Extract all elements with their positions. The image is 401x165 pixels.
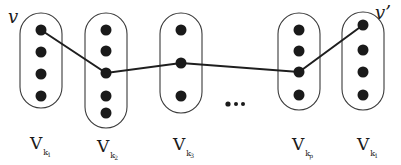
vertex-v [36, 25, 47, 36]
set-outlines [20, 12, 384, 128]
vertex [36, 69, 47, 80]
vertex [294, 25, 305, 36]
set-2-label: Vk2 [97, 138, 118, 155]
set-label-subsub: p [309, 152, 313, 159]
set-label-main: V [292, 134, 304, 154]
set-label-main: V [30, 133, 42, 153]
vertex [101, 46, 112, 57]
set-label-subsub: 2 [114, 154, 118, 161]
ellipsis-icon [225, 101, 245, 106]
graph-diagram [0, 0, 401, 165]
set-label-subsub: 1 [47, 151, 51, 158]
set-label-subsub: 3 [190, 152, 194, 159]
vertex [101, 108, 112, 119]
set-2-vertices [101, 25, 112, 119]
set-last-vertices [358, 20, 369, 101]
set-label-main: V [357, 134, 369, 154]
vertex [36, 91, 47, 102]
set-1-label: Vk1 [30, 135, 51, 152]
set-label-main: V [173, 134, 185, 154]
set-p-vertices [294, 25, 305, 101]
set-1-vertices [36, 25, 47, 102]
set-p-label: Vkp [292, 136, 313, 153]
set-last-label: Vk1 [357, 136, 378, 153]
set-label-main: V [97, 136, 109, 156]
vertex-v-prime [358, 20, 369, 31]
set-3-label: Vk3 [173, 136, 194, 153]
vertex [358, 67, 369, 78]
vertex [358, 45, 369, 56]
vertex [101, 25, 112, 36]
vertex-label-v-prime: v’ [375, 4, 391, 22]
vertex [294, 46, 305, 57]
vertex [294, 90, 305, 101]
vertex-on-path [294, 67, 305, 78]
vertex-on-path [176, 58, 187, 69]
vertex-on-path [101, 68, 112, 79]
vertex [358, 90, 369, 101]
vertex [176, 91, 187, 102]
vertex [36, 47, 47, 58]
vertex-label-v: v [8, 8, 18, 26]
set-3-vertices [176, 25, 187, 102]
vertex [101, 91, 112, 102]
set-label-subsub: 1 [374, 152, 378, 159]
vertex [176, 25, 187, 36]
